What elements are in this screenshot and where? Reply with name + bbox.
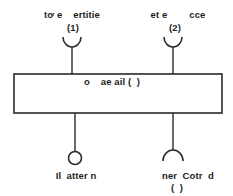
- component-name: o ae ail ( ): [64, 76, 160, 87]
- socket-icon: [63, 37, 81, 47]
- required-interface-top-left[interactable]: [63, 37, 81, 74]
- provided-interface-bottom-left[interactable]: [69, 113, 82, 165]
- interface-label-top-right: et e cce: [140, 9, 216, 20]
- required-interface-bottom-right[interactable]: [163, 113, 183, 161]
- interface-label-bottom-right: ner Cotr d: [150, 170, 226, 181]
- socket-icon: [164, 37, 182, 47]
- interface-number-top-left: (1): [60, 22, 86, 33]
- interface-number-top-right: (2): [162, 22, 188, 33]
- lollipop-icon: [69, 152, 82, 165]
- interface-label-bottom-left: Il atter n: [44, 170, 108, 181]
- interface-label-top-left: tơ e ertitie: [30, 9, 114, 20]
- interface-number-bottom-right: ( ): [164, 182, 190, 193]
- socket-icon: [163, 150, 183, 161]
- required-interface-top-right[interactable]: [164, 37, 182, 74]
- component-diagram: [0, 0, 233, 196]
